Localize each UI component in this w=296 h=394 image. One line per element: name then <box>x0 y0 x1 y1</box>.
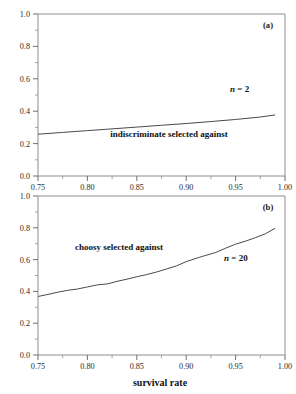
panel-b-annotation: choosy selected against <box>75 242 163 252</box>
y-tick-label: 0.4 <box>20 287 30 296</box>
x-tick-label: 0.90 <box>179 362 193 371</box>
x-axis-title: survival rate <box>133 377 188 388</box>
panel-a-annotation: indiscriminate selected against <box>110 129 228 139</box>
panel-b-n-label: n = 20 <box>224 253 248 263</box>
y-tick-label: 0.6 <box>20 256 30 265</box>
x-tick-label: 0.75 <box>31 183 45 192</box>
x-tick-label: 0.90 <box>179 183 193 192</box>
panel-b-x-tick-labels: 0.75 0.80 0.85 0.90 0.95 1.00 <box>31 362 292 371</box>
x-tick-label: 0.75 <box>31 362 45 371</box>
panel-a: 0.0 0.2 0.4 0.6 0.8 1.0 <box>20 10 292 192</box>
n-value: = 20 <box>229 253 248 263</box>
y-tick-label: 1.0 <box>20 192 30 201</box>
x-tick-label: 0.95 <box>228 183 242 192</box>
panel-a-y-tick-labels: 0.0 0.2 0.4 0.6 0.8 1.0 <box>20 10 30 181</box>
panel-a-frame <box>38 14 285 176</box>
y-tick-label: 0.8 <box>20 224 30 233</box>
panel-a-label: (a) <box>263 20 273 30</box>
panel-b-frame <box>38 196 285 355</box>
y-tick-label: 0.2 <box>20 319 30 328</box>
x-tick-label: 1.00 <box>278 183 292 192</box>
figure-svg: 0.0 0.2 0.4 0.6 0.8 1.0 <box>0 0 296 394</box>
x-tick-label: 0.80 <box>80 362 94 371</box>
n-value: = 2 <box>235 84 250 94</box>
panel-b-y-tick-labels: 0.0 0.2 0.4 0.6 0.8 1.0 <box>20 192 30 360</box>
y-tick-label: 0.0 <box>20 351 30 360</box>
y-tick-label: 1.0 <box>20 10 30 19</box>
x-tick-label: 0.95 <box>228 362 242 371</box>
x-tick-label: 0.80 <box>80 183 94 192</box>
x-tick-label: 0.85 <box>130 183 144 192</box>
y-tick-label: 0.8 <box>20 42 30 51</box>
panel-b: 0.0 0.2 0.4 0.6 0.8 1.0 <box>20 192 292 371</box>
y-tick-label: 0.6 <box>20 75 30 84</box>
x-tick-label: 0.85 <box>130 362 144 371</box>
figure-container: 0.0 0.2 0.4 0.6 0.8 1.0 <box>0 0 296 394</box>
y-tick-label: 0.2 <box>20 140 30 149</box>
panel-a-n-label: n = 2 <box>230 84 250 94</box>
y-tick-label: 0.0 <box>20 172 30 181</box>
panel-b-label: (b) <box>263 202 274 212</box>
y-tick-label: 0.4 <box>20 107 30 116</box>
x-tick-label: 1.00 <box>278 362 292 371</box>
panel-a-x-tick-labels: 0.75 0.80 0.85 0.90 0.95 1.00 <box>31 183 292 192</box>
